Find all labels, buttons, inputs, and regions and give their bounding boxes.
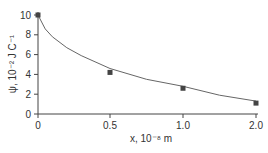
y-tick-label: 2 (25, 89, 31, 100)
y-tick-label: 0 (25, 109, 31, 120)
x-tick-label: 0 (35, 120, 41, 131)
y-axis-label: ψ, 10⁻² J C⁻¹ (7, 34, 18, 93)
x-tick-label: 0.5 (103, 120, 117, 131)
y-tick-label: 4 (25, 69, 31, 80)
data-point-marker (254, 101, 259, 106)
x-tick-label: 1.0 (176, 120, 190, 131)
chart: 024681000.51.02.0 x, 10⁻⁸ m ψ, 10⁻² J C⁻… (0, 0, 268, 153)
x-axis-label: x, 10⁻⁸ m (130, 133, 172, 144)
data-points (36, 13, 259, 106)
data-point-marker (181, 86, 186, 91)
axes: 024681000.51.02.0 (20, 10, 264, 132)
y-tick-label: 8 (25, 29, 31, 40)
fit-curve (38, 15, 256, 101)
y-tick-label: 6 (25, 49, 31, 60)
data-point-marker (108, 70, 113, 75)
y-tick-label: 10 (20, 10, 32, 21)
x-tick-label: 2.0 (249, 120, 263, 131)
data-point-marker (36, 13, 41, 18)
